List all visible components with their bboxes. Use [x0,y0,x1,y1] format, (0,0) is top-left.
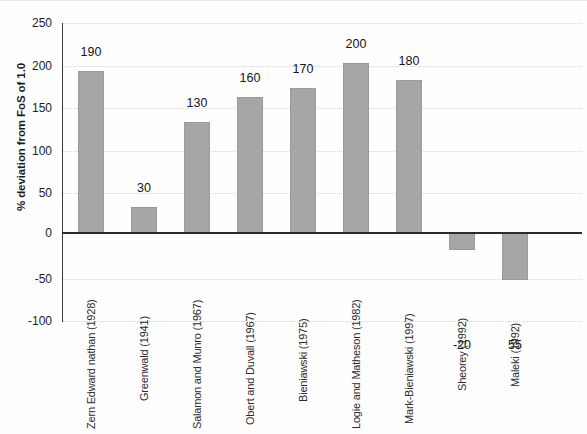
gridline-250 [63,23,582,24]
y-tick-0: 0 [45,226,52,240]
y-tick-250: 250 [32,16,52,30]
bar-zern-edward-nathan-1928[interactable] [78,71,104,233]
x-label-zern-edward-nathan-1928: Zern Edward nathan (1928) [85,299,97,429]
bar-value-mark-bieniawski-1997: 180 [379,54,439,68]
bar-value-salamon-and-munro-1967: 130 [167,96,227,110]
y-tick-neg100: -100 [28,314,52,328]
x-label-salamon-and-munro-1967: Salamon and Munro (1967) [191,300,203,429]
chart-figure: % deviation from FoS of 1.0 250 200 150 … [0,0,587,434]
gridline-100 [63,151,582,152]
bar-sheorey-1992[interactable] [449,233,475,250]
bar-maleki-1992[interactable] [502,233,528,280]
gridline-150 [63,108,582,109]
bar-logie-and-matheson-1982[interactable] [343,63,369,233]
bar-obert-and-duvall-1967[interactable] [237,97,263,233]
bar-salamon-and-munro-1967[interactable] [184,122,210,233]
bar-value-greenwald-1941: 30 [114,181,174,195]
x-label-greenwald-1941: Greenwald (1941) [138,316,150,401]
bar-bieniawski-1975[interactable] [290,88,316,233]
bar-value-zern-edward-nathan-1928: 190 [61,45,121,59]
x-label-mark-bieniawski-1997: Mark-Bieniawski (1997) [403,313,415,424]
y-axis-line [62,23,63,322]
zero-baseline [62,232,582,234]
bar-value-obert-and-duvall-1967: 160 [220,71,280,85]
y-tick-150: 150 [32,101,52,115]
x-label-maleki-1992: Maleki (1992) [509,323,521,387]
x-label-sheorey-1992: Sheorey (1992) [456,318,468,391]
bar-mark-bieniawski-1997[interactable] [396,80,422,233]
x-label-obert-and-duvall-1967: Obert and Duvall (1967) [244,312,256,425]
bar-greenwald-1941[interactable] [131,207,157,233]
x-label-bieniawski-1975: Bieniawski (1975) [297,319,309,402]
bar-value-bieniawski-1975: 170 [273,62,333,76]
bar-value-logie-and-matheson-1982: 200 [326,37,386,51]
y-tick-200: 200 [32,59,52,73]
y-tick-neg50: -50 [35,272,52,286]
x-label-logie-and-matheson-1982: Logie and Matheson (1982) [350,299,362,429]
y-tick-50: 50 [39,186,52,200]
y-tick-100: 100 [32,144,52,158]
y-axis-tick-labels: 250 200 150 100 50 0 -50 -100 [0,1,60,434]
